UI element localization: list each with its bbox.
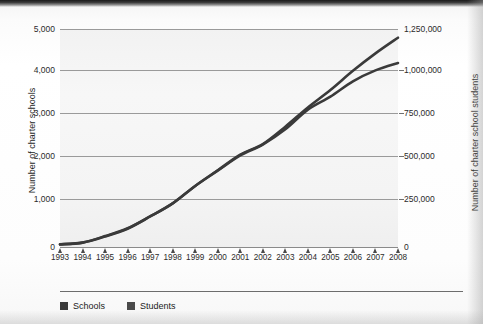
series-lines [0, 0, 483, 324]
line-series-schools [60, 63, 398, 244]
chart-legend: SchoolsStudents [60, 299, 176, 313]
legend-divider-rule [60, 291, 463, 292]
legend-label-students: Students [140, 302, 176, 311]
legend-swatch-icon-students [127, 302, 135, 310]
legend-label-schools: Schools [73, 302, 105, 311]
legend-item-schools: Schools [60, 302, 105, 311]
legend-swatch-icon-schools [60, 302, 68, 310]
line-series-students [60, 38, 398, 245]
chart-figure: 5,000 4,000 3,000 2,000 1,000 0 1,250,00… [0, 0, 483, 324]
legend-item-students: Students [127, 302, 176, 311]
